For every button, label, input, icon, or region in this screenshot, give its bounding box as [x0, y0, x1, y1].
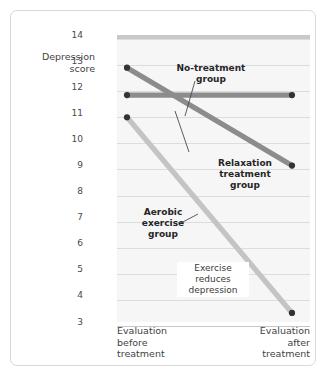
- annotation-relaxation-treatment-group: Relaxation treatment group: [197, 158, 293, 191]
- y-tick-label-6: 6: [61, 239, 83, 248]
- y-tick-label-5: 5: [61, 265, 83, 274]
- y-tick-label-3: 3: [61, 318, 83, 327]
- leader-line-relaxation: [175, 111, 189, 152]
- y-tick-label-10: 10: [61, 135, 83, 144]
- annotation-exercise-reduces-depression: Exercise reduces depression: [177, 262, 249, 297]
- y-tick-label-14: 14: [61, 31, 83, 40]
- y-tick-label-12: 12: [61, 83, 83, 92]
- leader-line-no-treatment: [185, 81, 195, 116]
- y-tick-label-8: 8: [61, 187, 83, 196]
- y-tick-label-7: 7: [61, 213, 83, 222]
- y-tick-label-9: 9: [61, 161, 83, 170]
- y-tick-label-13: 13: [61, 57, 83, 66]
- annotation-aerobic-exercise-group: Aerobic exercise group: [127, 207, 199, 240]
- y-axis-title: Depression score: [25, 51, 95, 74]
- y-tick-label-11: 11: [61, 109, 83, 118]
- y-tick-label-4: 4: [61, 291, 83, 300]
- figure-frame: Depression score 14131211109876543 Evalu…: [10, 10, 316, 366]
- x-axis-label-before: Evaluation before treatment: [117, 325, 203, 360]
- annotation-no-treatment-group: No-treatment group: [163, 63, 259, 85]
- x-axis-label-after: Evaluation after treatment: [224, 325, 310, 360]
